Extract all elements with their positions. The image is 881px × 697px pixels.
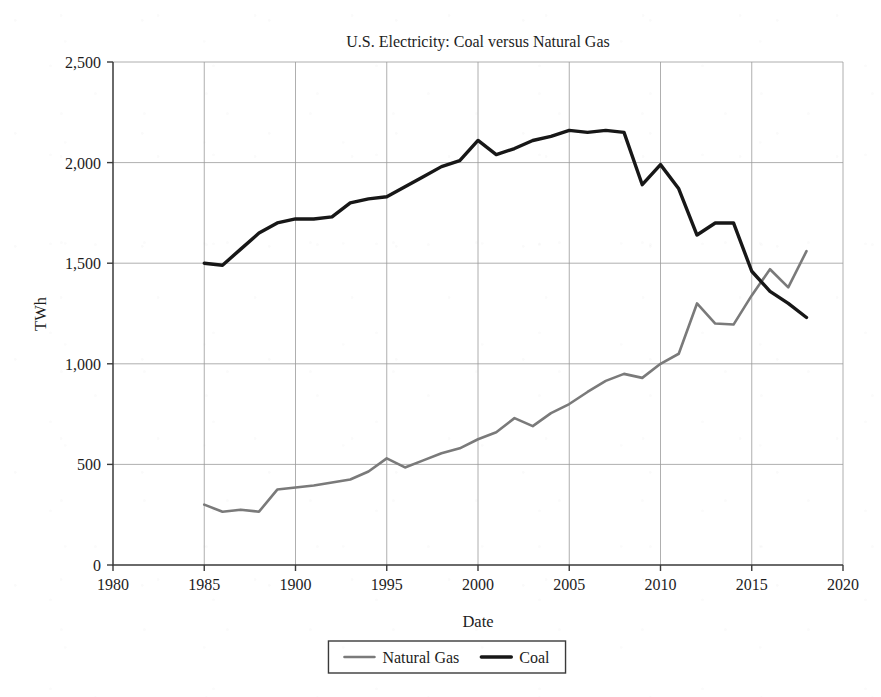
x-axis-tick-labels: 198019851900199520002005201020152020 (97, 576, 859, 593)
y-tick-label: 2,000 (65, 155, 101, 172)
series-line-coal (204, 130, 806, 317)
electricity-line-chart: U.S. Electricity: Coal versus Natural Ga… (0, 0, 881, 697)
x-tick-label: 1995 (371, 576, 403, 593)
x-tick-label: 2000 (462, 576, 494, 593)
x-axis-title: Date (462, 612, 493, 631)
legend-label-natural-gas: Natural Gas (382, 649, 459, 666)
chart-figure: U.S. Electricity: Coal versus Natural Ga… (0, 0, 881, 697)
y-axis-title: TWh (31, 296, 50, 331)
y-axis-tick-labels: 05001,0001,5002,0002,500 (65, 54, 101, 574)
vertical-gridlines (204, 62, 843, 565)
chart-legend: Natural GasCoal (328, 641, 565, 673)
x-tick-label: 1980 (97, 576, 129, 593)
y-axis-tick-marks (107, 62, 113, 565)
y-tick-label: 500 (77, 456, 101, 473)
y-tick-label: 1,000 (65, 356, 101, 373)
x-tick-label: 1985 (188, 576, 220, 593)
chart-title: U.S. Electricity: Coal versus Natural Ga… (346, 33, 610, 51)
x-tick-label: 2010 (645, 576, 677, 593)
x-axis-tick-marks (113, 565, 843, 571)
x-tick-label: 2020 (827, 576, 859, 593)
data-series-group (204, 130, 806, 511)
series-line-natural-gas (204, 251, 806, 512)
legend-label-coal: Coal (519, 649, 550, 666)
x-tick-label: 2005 (553, 576, 585, 593)
y-tick-label: 2,500 (65, 54, 101, 71)
y-tick-label: 1,500 (65, 255, 101, 272)
x-tick-label: 2015 (736, 576, 768, 593)
y-tick-label: 0 (93, 557, 101, 574)
x-tick-label: 1900 (280, 576, 312, 593)
